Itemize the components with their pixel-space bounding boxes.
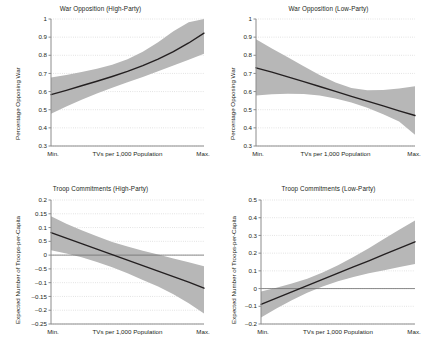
y-tick-label: 1 <box>249 15 253 22</box>
x-tick-label-min: Min. <box>257 328 269 335</box>
x-tick-label-max: Max. <box>196 328 210 335</box>
y-tick-label: 0.5 <box>38 106 47 113</box>
y-tick-label: 0.8 <box>38 51 47 58</box>
y-tick-label: 0.1 <box>38 224 47 231</box>
y-tick-label: 0.2 <box>248 249 257 256</box>
y-tick-label: –0.1 <box>35 279 48 286</box>
plot-area: 10.90.80.70.60.50.40.3Min.Max.TVs per 1,… <box>0 0 217 180</box>
y-tick-label: 0.9 <box>243 33 252 40</box>
x-axis-label: TVs per 1,000 Population <box>93 150 163 157</box>
y-tick-label: 0.7 <box>38 70 47 77</box>
y-tick-label: 0.4 <box>38 124 47 131</box>
confidence-band <box>256 39 415 135</box>
confidence-band <box>51 216 204 313</box>
figure-panel-grid: War Opposition (High-Party) Percentage O… <box>0 0 434 360</box>
y-tick-label: 0.5 <box>38 237 47 244</box>
trend-line <box>261 242 415 305</box>
y-tick-label: 0 <box>44 251 48 258</box>
chart-panel-troop-commitments-high-party: Troop Commitments (High-Party) Expected … <box>0 180 217 360</box>
chart-panel-war-opposition-low-party: War Opposition (Low-Party) Percentage Op… <box>217 0 434 180</box>
plot-area: 0.20.150.10.50–0.5–0.1–0.15–0.2–0.25Min.… <box>0 180 217 360</box>
x-tick-label-max: Max. <box>407 328 421 335</box>
x-tick-label-min: Min. <box>47 328 59 335</box>
y-tick-label: –0.2 <box>245 320 258 327</box>
y-tick-label: 0.9 <box>38 33 47 40</box>
y-tick-label: 1 <box>44 15 48 22</box>
y-tick-label: 0.15 <box>35 210 48 217</box>
plot-area: 0.50.40.30.20.10–0.1–0.2Min.Max.TVs per … <box>217 180 434 360</box>
y-tick-label: 0.3 <box>243 142 252 149</box>
y-tick-label: 0 <box>254 285 258 292</box>
y-tick-label: –0.25 <box>32 320 48 327</box>
x-axis-label: TVs per 1,000 Population <box>93 328 163 335</box>
x-tick-label-max: Max. <box>407 150 421 157</box>
y-tick-label: 0.6 <box>243 88 252 95</box>
y-tick-label: 0.3 <box>38 142 47 149</box>
y-tick-label: 0.5 <box>243 106 252 113</box>
y-tick-label: 0.6 <box>38 88 47 95</box>
y-tick-label: 0.1 <box>248 267 257 274</box>
y-tick-label: –0.2 <box>35 306 48 313</box>
x-tick-label-max: Max. <box>196 150 210 157</box>
y-tick-label: –0.5 <box>35 265 48 272</box>
plot-area: 10.90.80.70.60.50.40.3Min.Max.TVs per 1,… <box>217 0 434 180</box>
y-tick-label: 0.2 <box>38 196 47 203</box>
confidence-band <box>51 19 204 114</box>
y-tick-label: –0.1 <box>245 302 258 309</box>
y-tick-label: 0.5 <box>248 196 257 203</box>
y-tick-label: 0.3 <box>248 232 257 239</box>
x-tick-label-min: Min. <box>47 150 59 157</box>
y-tick-label: 0.8 <box>243 51 252 58</box>
x-axis-label: TVs per 1,000 Population <box>301 150 371 157</box>
x-tick-label-min: Min. <box>252 150 264 157</box>
x-axis-label: TVs per 1,000 Population <box>303 328 373 335</box>
y-tick-label: 0.4 <box>243 124 252 131</box>
chart-panel-troop-commitments-low-party: Troop Commitments (Low-Party) Expected N… <box>217 180 434 360</box>
y-tick-label: 0.4 <box>248 214 257 221</box>
chart-panel-war-opposition-high-party: War Opposition (High-Party) Percentage O… <box>0 0 217 180</box>
y-tick-label: 0.7 <box>243 70 252 77</box>
y-tick-label: –0.15 <box>32 293 48 300</box>
